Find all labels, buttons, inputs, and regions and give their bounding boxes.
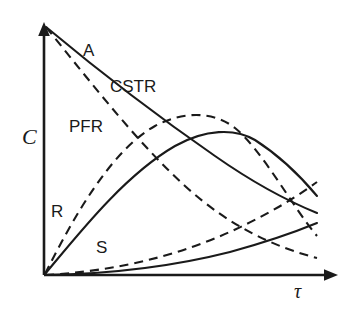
plot-canvas xyxy=(0,0,356,315)
x-axis-arrow-icon xyxy=(324,269,338,281)
annotation-label-S: S xyxy=(96,239,107,256)
y-axis-label: C xyxy=(22,126,37,148)
curve-S-cstr xyxy=(45,223,317,275)
annotation-label-cstr: CSTR xyxy=(110,78,156,95)
curve-R-cstr xyxy=(45,132,317,274)
annotation-label-A: A xyxy=(83,42,94,59)
annotation-label-R: R xyxy=(51,203,63,220)
curve-S-pfr xyxy=(45,182,317,275)
annotation-label-pfr: PFR xyxy=(69,118,103,135)
x-axis-label: τ xyxy=(294,281,301,301)
concentration-vs-space-time-figure: C τ A CSTR PFR R S xyxy=(0,0,356,315)
